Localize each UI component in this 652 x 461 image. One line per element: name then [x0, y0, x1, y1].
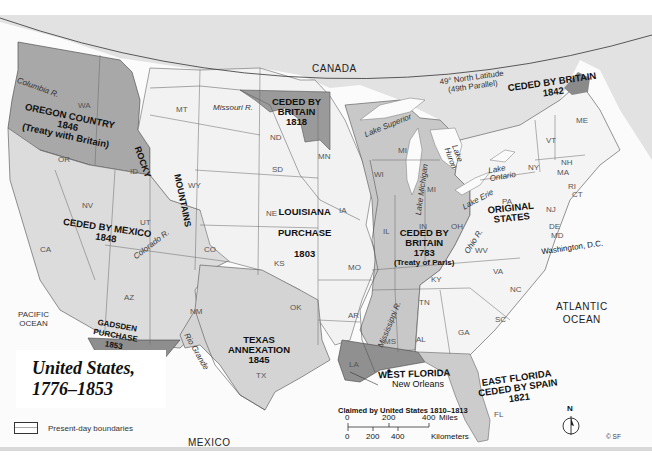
state-AL: AL: [416, 335, 426, 344]
missouri-river-label: Missouri R.: [213, 103, 253, 112]
state-IA: IA: [339, 206, 347, 215]
miles-tick-200: 200: [382, 413, 395, 422]
state-AR: AR: [348, 311, 359, 320]
copyright-label: © SF: [606, 433, 621, 440]
state-SC: SC: [495, 315, 506, 324]
state-LA: LA: [349, 360, 359, 369]
bottom-border: [0, 447, 652, 451]
state-MI-upper: MI: [398, 146, 407, 155]
map-title: United States, 1776–1853: [16, 350, 166, 400]
miles-unit: Miles: [439, 413, 458, 422]
state-PA: PA: [502, 197, 512, 206]
compass-icon: [561, 414, 581, 438]
canada-label: CANADA: [312, 63, 357, 74]
state-NV: NV: [82, 201, 93, 210]
state-AZ: AZ: [124, 293, 134, 302]
state-MN: MN: [318, 152, 330, 161]
state-UT: UT: [140, 218, 151, 227]
state-DE: DE: [549, 222, 560, 231]
state-NJ: NJ: [546, 205, 556, 214]
state-FL: FL: [494, 410, 503, 419]
state-CA: CA: [40, 245, 51, 254]
state-MT: MT: [176, 105, 188, 114]
state-OK: OK: [290, 303, 302, 312]
state-ID: ID: [130, 167, 138, 176]
state-TX: TX: [256, 371, 266, 380]
state-GA: GA: [458, 328, 470, 337]
state-NC: NC: [510, 285, 522, 294]
miles-tick-400: 400: [422, 413, 435, 422]
state-CO: CO: [204, 245, 216, 254]
state-MD: MD: [551, 231, 563, 240]
state-IN: IN: [419, 222, 427, 231]
state-NH: NH: [561, 158, 573, 167]
km-tick-400: 400: [391, 432, 404, 441]
km-tick-0: 0: [345, 432, 349, 441]
state-MI: MI: [427, 185, 436, 194]
state-VA: VA: [493, 267, 503, 276]
state-MO: MO: [348, 263, 361, 272]
km-unit: Kilometers: [431, 432, 469, 441]
compass-north-label: N: [567, 404, 573, 413]
state-VT: VT: [546, 136, 556, 145]
pacific-ocean-label: PACIFIC OCEAN: [18, 310, 49, 328]
scale-bar: 0 200 400 Miles 0 200 400 Kilometers: [345, 412, 475, 444]
state-WA: WA: [78, 101, 91, 110]
state-MA: MA: [557, 168, 569, 177]
legend-label: Present-day boundaries: [48, 424, 133, 433]
map-legend: Present-day boundaries: [14, 422, 133, 434]
state-OR: OR: [58, 155, 70, 164]
map-title-box: United States, 1776–1853: [16, 350, 166, 408]
miles-tick-0: 0: [345, 413, 349, 422]
km-tick-200: 200: [366, 432, 379, 441]
state-RI: RI: [568, 182, 576, 191]
state-CT: CT: [572, 190, 583, 199]
state-IL: IL: [383, 227, 390, 236]
louisiana-purchase-label: LOUISIANA PURCHASE 1803: [278, 201, 331, 264]
ceded-britain-1783-label: CEDED BY BRITAIN 1783 (Treaty of Paris): [394, 228, 454, 268]
north-arrow: N: [561, 404, 581, 438]
atlantic-ocean-label: ATLANTIC OCEAN: [556, 300, 608, 326]
state-TN: TN: [419, 298, 430, 307]
state-NE: NE: [266, 209, 277, 218]
state-MS: MS: [384, 337, 396, 346]
state-SD: SD: [272, 165, 283, 174]
state-ND: ND: [270, 133, 282, 142]
ceded-britain-1818-label: CEDED BY BRITAIN 1818: [272, 97, 321, 127]
new-orleans-label: New Orleans: [392, 379, 444, 389]
state-KS: KS: [274, 259, 285, 268]
state-WV: WV: [475, 246, 488, 255]
mexico-label: MEXICO: [188, 437, 230, 447]
state-ME: ME: [576, 116, 588, 125]
state-WY: WY: [188, 181, 201, 190]
state-NM: NM: [190, 307, 202, 316]
state-NY: NY: [528, 163, 539, 172]
state-OH: OH: [451, 222, 463, 231]
texas-annexation-label: TEXAS ANNEXATION 1845: [228, 335, 290, 365]
state-KY: KY: [431, 275, 442, 284]
state-WI: WI: [374, 170, 384, 179]
present-day-boundaries-swatch: [14, 422, 38, 434]
